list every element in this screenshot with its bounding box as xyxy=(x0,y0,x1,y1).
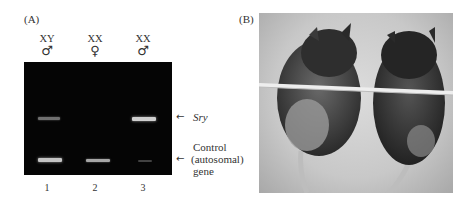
lane-3-number: 3 xyxy=(133,182,153,193)
arrow-left-icon: ← xyxy=(176,111,184,122)
panel-a-label: (A) xyxy=(24,13,39,25)
female-symbol-icon: ♀ xyxy=(80,44,110,57)
control-label-line2: (autosomal) xyxy=(191,153,244,165)
panel-b-label: (B) xyxy=(239,13,254,25)
sry-label: Sry xyxy=(193,111,208,123)
band-lane1-sry xyxy=(38,117,60,120)
lane-2-number: 2 xyxy=(85,182,105,193)
control-label-line3: gene xyxy=(193,165,214,177)
male-symbol-icon: ♂ xyxy=(32,44,62,57)
gel-image xyxy=(24,62,172,175)
male-symbol-icon: ♂ xyxy=(128,44,158,57)
band-lane3-control xyxy=(138,160,152,162)
lane-1-number: 1 xyxy=(37,182,57,193)
mice-photograph xyxy=(259,13,453,193)
mice-illustration xyxy=(259,13,453,193)
control-label-line1: Control xyxy=(193,141,227,153)
arrow-left-icon: ← xyxy=(176,153,184,164)
band-lane2-control xyxy=(86,159,110,162)
band-lane3-sry xyxy=(132,117,156,121)
band-lane1-control xyxy=(38,158,62,162)
